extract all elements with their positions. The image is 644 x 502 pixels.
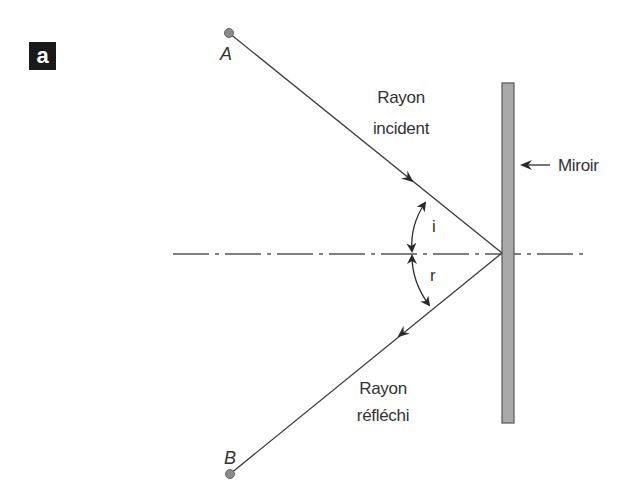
- point-b-marker: [226, 470, 235, 479]
- angle-i-arc: [412, 203, 425, 251]
- point-a-label: A: [219, 44, 232, 64]
- angle-r-label: r: [430, 266, 436, 285]
- angle-i-label: i: [432, 217, 436, 236]
- angle-r-arc: [412, 256, 429, 305]
- badge-label: a: [36, 43, 49, 68]
- reflected-ray-label-line1: Rayon: [359, 379, 407, 398]
- mirror-label: Miroir: [558, 156, 599, 175]
- incident-ray: [229, 33, 502, 253]
- point-a-marker: [225, 29, 234, 38]
- figure-badge: a: [29, 42, 56, 70]
- point-b-label: B: [224, 448, 236, 468]
- mirror: [502, 83, 514, 423]
- reflection-diagram: a i r Miroir Rayon incident Rayon réfléc…: [0, 0, 644, 502]
- reflected-ray-label-line2: réfléchi: [357, 406, 409, 425]
- reflected-ray: [230, 253, 502, 474]
- incident-ray-label-line1: Rayon: [377, 88, 425, 107]
- incident-ray-label-line2: incident: [373, 119, 430, 138]
